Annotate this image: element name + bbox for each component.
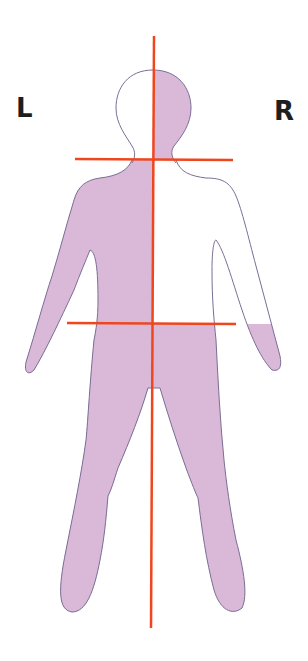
- body-diagram: [0, 0, 308, 661]
- hip-horizontal-line: [67, 323, 236, 324]
- neck-horizontal-line: [75, 159, 233, 160]
